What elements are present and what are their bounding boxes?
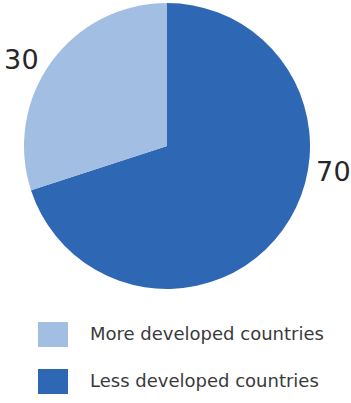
legend-swatch-less-developed — [38, 369, 68, 394]
pie-value-label-more-developed: 30 — [4, 46, 39, 73]
pie-chart-graphic — [24, 3, 310, 289]
legend-label-less-developed: Less developed countries — [90, 372, 319, 390]
legend-swatch-more-developed — [38, 322, 68, 347]
pie-svg — [24, 3, 310, 289]
pie-value-label-less-developed: 70 — [316, 158, 351, 185]
legend-label-more-developed: More developed countries — [90, 325, 324, 343]
legend-item-more-developed: More developed countries — [38, 321, 324, 347]
legend-item-less-developed: Less developed countries — [38, 368, 319, 394]
